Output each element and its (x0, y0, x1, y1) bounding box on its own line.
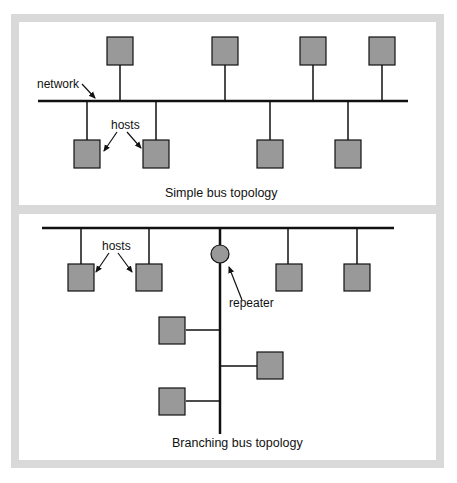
host-node (74, 140, 361, 168)
simple-bus (38, 37, 408, 168)
network-arrow-icon (82, 84, 95, 98)
hosts-arrow-icon (127, 132, 141, 148)
branching-bus-caption: Branching bus topology (172, 436, 303, 450)
hosts-arrow-icon (118, 253, 132, 272)
network-label: network (37, 77, 79, 91)
hosts-label: hosts (102, 239, 131, 253)
repeater-node (211, 245, 229, 263)
hosts-arrow-icon (104, 132, 117, 151)
repeater-label: repeater (229, 296, 274, 310)
host-node (107, 37, 395, 65)
branching-bus (42, 228, 394, 434)
simple-bus-caption: Simple bus topology (165, 186, 278, 200)
topology-diagrams (0, 0, 457, 483)
hosts-arrow-icon (96, 253, 109, 272)
hosts-label: hosts (111, 118, 140, 132)
